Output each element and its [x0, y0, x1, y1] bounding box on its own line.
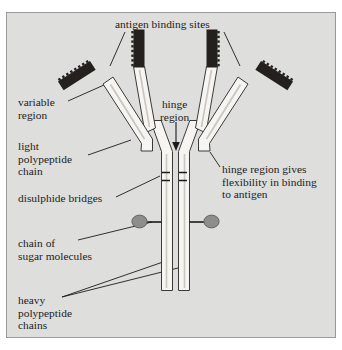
label-hinge-flexibility: hinge region gives flexibility in bindin… [222, 163, 317, 201]
leader-light-chain [88, 140, 131, 155]
label-variable-region: variable region [18, 96, 55, 121]
variable-region-inner-left [131, 30, 144, 68]
heavy-chain-right [179, 121, 201, 291]
label-light-polypeptide-chain: light polypeptide chain [18, 140, 72, 178]
leader-antigen-right [224, 32, 240, 66]
sugar-chain-right [190, 215, 220, 228]
leader-antigen-left [110, 32, 125, 66]
figure-page: antigen binding sites variable region li… [0, 0, 342, 350]
label-chain-of-sugar-molecules: chain of sugar molecules [18, 237, 92, 262]
leader-heavy-left [62, 262, 163, 297]
sugar-chain-left [132, 215, 162, 228]
variable-region-outer-right [255, 59, 294, 90]
sugar-molecule-left [132, 215, 147, 228]
hinge-region-arrow [172, 122, 180, 151]
variable-region-inner-right [207, 30, 220, 68]
label-heavy-polypeptide-chains: heavy polypeptide chains [18, 294, 72, 332]
leader-disulphide [116, 176, 160, 197]
label-hinge-region: hinge region [160, 98, 189, 123]
leader-flexibility [210, 152, 220, 167]
variable-region-outer-left [57, 59, 96, 90]
leader-variable-region [68, 85, 104, 101]
label-disulphide-bridges: disulphide bridges [18, 192, 102, 205]
label-antigen-binding-sites: antigen binding sites [115, 18, 210, 31]
sugar-molecule-right [204, 215, 219, 228]
